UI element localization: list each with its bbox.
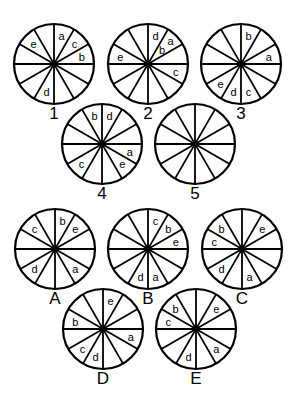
segment-letter-b: b <box>245 30 251 42</box>
segment-letter-e: e <box>119 158 125 170</box>
segment-letter-a: a <box>127 146 134 158</box>
figure-label: 2 <box>143 104 152 123</box>
segment-letter-b: b <box>173 303 179 315</box>
hub-dot <box>52 246 58 252</box>
hub-dot <box>239 246 245 252</box>
question-figures: acbde1dbace2bacde3daecb45 <box>14 24 281 203</box>
segment-letter-c: c <box>246 86 252 98</box>
hub-dot <box>100 326 106 332</box>
hub-dot <box>238 61 244 67</box>
segment-letter-d: d <box>219 263 225 275</box>
segment-letter-a: a <box>152 271 159 283</box>
segment-letter-b: b <box>79 51 85 63</box>
figure-label: E <box>190 369 201 388</box>
segment-letter-d: d <box>43 86 49 98</box>
figure-label: C <box>236 289 248 308</box>
segment-letter-e: e <box>117 51 123 63</box>
question_figures-4: daecb4 <box>62 104 142 203</box>
figure-label: B <box>142 289 153 308</box>
figure-label: A <box>49 289 61 308</box>
hub-dot <box>145 61 151 67</box>
segment-letter-d: d <box>230 86 236 98</box>
puzzle-canvas: acbde1dbace2bacde3daecb45 beadcAcbeadBea… <box>0 0 300 401</box>
question_figures-5: 5 <box>155 104 235 203</box>
segment-letter-b: b <box>165 223 171 235</box>
segment-letter-c: c <box>80 343 86 355</box>
figure-label: 4 <box>97 184 106 203</box>
segment-letter-a: a <box>128 331 135 343</box>
figure-label: 5 <box>190 184 199 203</box>
segment-letter-e: e <box>107 295 113 307</box>
hub-dot <box>145 246 151 252</box>
segment-letter-d: d <box>106 110 112 122</box>
segment-letter-d: d <box>137 271 143 283</box>
segment-letter-e: e <box>72 223 78 235</box>
segment-letter-d: d <box>152 30 158 42</box>
segment-letter-e: e <box>173 236 179 248</box>
circle-sequence-diagram: acbde1dbace2bacde3daecb45 beadcAcbeadBea… <box>0 0 300 401</box>
segment-letter-b: b <box>159 44 165 56</box>
answer-options: beadcAcbeadBeadcbCeadcbDeadcbE <box>15 209 282 388</box>
segment-letter-d: d <box>92 351 98 363</box>
segment-letter-b: b <box>72 316 78 328</box>
segment-letter-c: c <box>72 38 78 50</box>
segment-letter-c: c <box>173 66 179 78</box>
hub-dot <box>99 141 105 147</box>
segment-letter-c: c <box>32 223 38 235</box>
segment-letter-a: a <box>266 51 273 63</box>
answer_options-e[interactable]: eadcbE <box>156 289 236 388</box>
segment-letter-c: c <box>153 215 159 227</box>
segment-letter-d: d <box>185 351 191 363</box>
segment-letter-a: a <box>168 35 175 47</box>
segment-letter-e: e <box>218 78 224 90</box>
segment-letter-a: a <box>246 271 253 283</box>
segment-letter-b: b <box>59 215 65 227</box>
hub-dot <box>192 141 198 147</box>
answer_options-d[interactable]: eadcbD <box>63 289 143 388</box>
segment-letter-a: a <box>213 343 220 355</box>
segment-letter-a: a <box>72 263 79 275</box>
figure-label: D <box>97 369 109 388</box>
segment-letter-e: e <box>213 303 219 315</box>
figure-label: 1 <box>49 104 58 123</box>
segment-letter-b: b <box>219 223 225 235</box>
segment-letter-a: a <box>58 30 65 42</box>
segment-letter-b: b <box>91 110 97 122</box>
hub-dot <box>51 61 57 67</box>
segment-letter-c: c <box>79 158 85 170</box>
segment-letter-c: c <box>211 236 217 248</box>
segment-letter-e: e <box>259 223 265 235</box>
segment-letter-d: d <box>32 263 38 275</box>
hub-dot <box>193 326 199 332</box>
figure-label: 3 <box>236 104 245 123</box>
segment-letter-e: e <box>31 38 37 50</box>
segment-letter-c: c <box>165 316 171 328</box>
